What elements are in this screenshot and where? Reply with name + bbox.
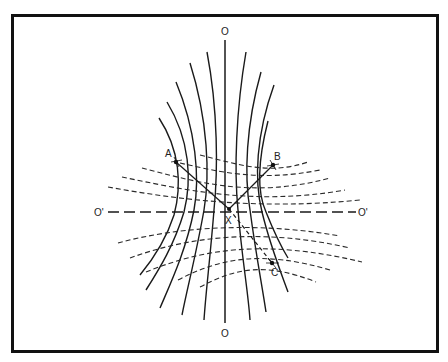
label-bottom-o: O bbox=[221, 328, 229, 339]
label-c: C bbox=[271, 267, 278, 278]
label-x: X bbox=[225, 215, 232, 226]
intersection-point bbox=[227, 207, 231, 211]
label-b: B bbox=[274, 151, 281, 162]
field-diagram: O O O' O' A B C X bbox=[0, 0, 448, 362]
label-a: A bbox=[165, 148, 172, 159]
label-right-o-prime: O' bbox=[358, 207, 368, 218]
label-top-o: O bbox=[221, 26, 229, 37]
solid-field-lines bbox=[140, 52, 288, 320]
label-left-o-prime: O' bbox=[94, 207, 104, 218]
